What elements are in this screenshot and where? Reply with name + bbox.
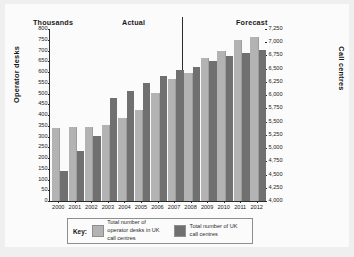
x-axis-tickmark <box>75 201 76 203</box>
bar-operator-desks <box>69 127 77 201</box>
bar-call-centres <box>77 151 84 201</box>
left-axis-tickmark <box>48 147 50 148</box>
right-axis-tickmark <box>265 201 267 202</box>
left-axis-tick-label: 500 <box>38 91 47 97</box>
x-axis-tick-label: 2010 <box>215 204 232 210</box>
left-axis-tick-label: 0 <box>44 198 47 204</box>
bar-group <box>52 128 68 201</box>
bar-operator-desks <box>52 128 60 201</box>
x-axis-tick-label: 2007 <box>166 204 183 210</box>
left-axis-tick-label: 400 <box>38 112 47 118</box>
left-axis-tickmark <box>48 61 50 62</box>
bar-call-centres <box>143 83 150 201</box>
left-axis-tickmark <box>48 126 50 127</box>
legend-entry-call-centres: Total number of UK call centres <box>174 223 247 238</box>
left-axis-tick-label: 100 <box>38 177 47 183</box>
left-axis-tick-label: 800 <box>38 26 47 32</box>
legend-entry-operator-desks: Total number of operator desks in UK cal… <box>92 219 168 242</box>
bar-call-centres <box>193 67 200 201</box>
bar-group <box>250 37 266 201</box>
right-axis-tick-label: 4,500 <box>269 172 283 178</box>
right-axis-tick-label: 6,000 <box>269 92 283 98</box>
right-axis-tick-label: 6,750 <box>269 52 283 58</box>
right-axis-tickmark <box>265 29 267 30</box>
bar-group <box>201 58 217 201</box>
x-axis-tickmark <box>224 201 225 203</box>
legend-swatch-operator-desks <box>92 225 104 237</box>
x-axis-tickmark <box>91 201 92 203</box>
right-axis-tick-label: 7,000 <box>269 39 283 45</box>
right-axis-tick-label: 6,250 <box>269 79 283 85</box>
x-axis-tick-label: 2011 <box>232 204 249 210</box>
actual-region-label: Actual <box>122 18 145 27</box>
left-axis-tickmark <box>48 51 50 52</box>
bar-call-centres <box>93 136 100 201</box>
left-axis-tick-label: 150 <box>38 166 47 172</box>
left-axis-tick-label: 300 <box>38 134 47 140</box>
bar-group <box>234 40 250 201</box>
left-axis-tick-label: 250 <box>38 144 47 150</box>
bar-call-centres <box>209 61 216 201</box>
left-axis-tick-label: 50 <box>41 187 47 193</box>
bar-group <box>151 76 167 201</box>
bar-operator-desks <box>234 40 242 201</box>
x-axis-tickmark <box>240 201 241 203</box>
x-axis-tickmark <box>174 201 175 203</box>
left-axis-tickmark <box>48 104 50 105</box>
bar-call-centres <box>226 56 233 201</box>
x-axis-tick-label: 2012 <box>248 204 265 210</box>
x-axis-tick-label: 2000 <box>50 204 67 210</box>
bar-call-centres <box>60 171 67 201</box>
x-axis-tickmark <box>108 201 109 203</box>
chart-legend: Key: Total number of operator desks in U… <box>67 218 253 244</box>
right-axis-tick-label: 4,750 <box>269 158 283 164</box>
right-axis-tick-label: 4,250 <box>269 185 283 191</box>
right-axis-title: Call centres <box>337 39 346 99</box>
x-axis-tick-label: 2001 <box>67 204 84 210</box>
left-axis-tickmark <box>48 180 50 181</box>
bar-call-centres <box>259 50 266 201</box>
chart-card: Thousands Actual Forecast Operator desks… <box>5 4 349 247</box>
x-axis-tick-label: 2009 <box>199 204 216 210</box>
bar-operator-desks <box>250 37 258 201</box>
bar-group <box>85 127 101 201</box>
forecast-region-label: Forecast <box>236 18 268 27</box>
left-axis-tick-label: 350 <box>38 123 47 129</box>
legend-swatch-call-centres <box>174 225 186 237</box>
bar-operator-desks <box>85 127 93 201</box>
bar-group <box>69 127 85 201</box>
bar-operator-desks <box>151 93 159 201</box>
left-axis-tickmark <box>48 72 50 73</box>
bar-group <box>184 67 200 201</box>
chart-screenshot: Thousands Actual Forecast Operator desks… <box>0 0 354 257</box>
bar-operator-desks <box>184 73 192 201</box>
right-axis-tick-label: 4,000 <box>269 198 283 204</box>
bar-operator-desks <box>201 58 209 201</box>
right-axis-tick-label: 5,750 <box>269 105 283 111</box>
left-axis-tick-label: 700 <box>38 48 47 54</box>
bar-operator-desks <box>168 79 176 201</box>
bar-operator-desks <box>118 118 126 201</box>
legend-label-call-centres: Total number of UK call centres <box>190 223 247 238</box>
x-axis-tickmark <box>191 201 192 203</box>
bar-call-centres <box>176 70 183 201</box>
bar-group <box>102 98 118 201</box>
x-axis-tick-label: 2005 <box>133 204 150 210</box>
left-axis-tickmark <box>48 158 50 159</box>
bar-group <box>135 83 151 201</box>
right-axis-tick-label: 7,250 <box>269 26 283 32</box>
left-axis-tickmark <box>48 190 50 191</box>
x-axis-tickmark <box>207 201 208 203</box>
bar-call-centres <box>110 98 117 201</box>
x-axis-tick-label: 2006 <box>149 204 166 210</box>
x-axis-tickmark <box>58 201 59 203</box>
left-axis-tickmark <box>48 29 50 30</box>
plot-area: 0501001502002503003504004505005506006507… <box>49 29 265 202</box>
left-axis-tick-label: 750 <box>38 37 47 43</box>
x-axis-tick-label: 2002 <box>83 204 100 210</box>
left-axis-tick-label: 600 <box>38 69 47 75</box>
left-axis-tickmark <box>48 137 50 138</box>
bar-group <box>217 51 233 201</box>
left-axis-tickmark <box>48 83 50 84</box>
right-axis-tick-label: 6,500 <box>269 66 283 72</box>
